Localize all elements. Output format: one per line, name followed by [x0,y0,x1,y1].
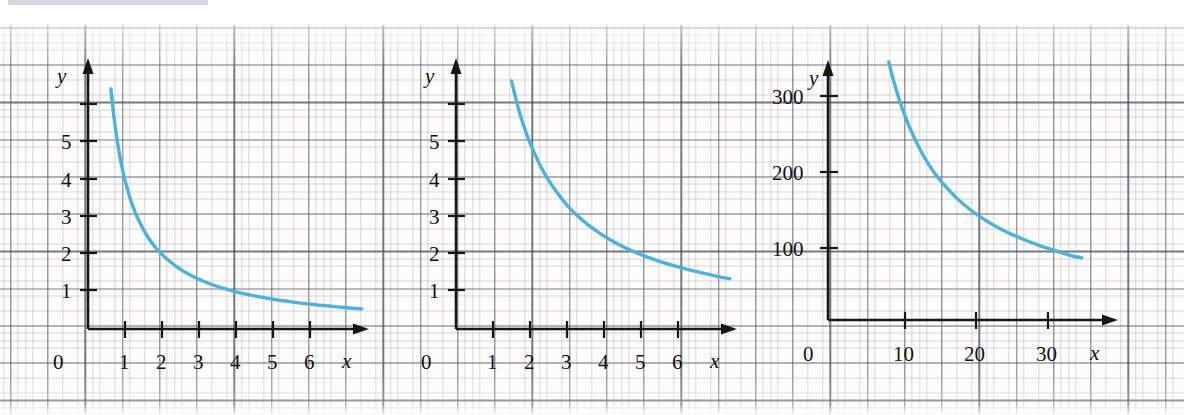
graph-c-ylabel-300: 300 [772,85,804,109]
graph-c-y-label: y [807,66,819,90]
graph-c-x-axis-arrow [1102,315,1118,326]
graph-c-xlabel-20: 20 [964,342,985,366]
graph-c: y x 0 100 200 300 10 20 30 [0,0,1184,415]
graph-c-x-label: x [1089,341,1100,365]
graph-c-ylabel-100: 100 [772,237,804,261]
graph-c-curve [889,62,1082,258]
figure-stage: y x 0 1 2 3 4 5 1 2 3 4 5 6 y x [0,0,1184,415]
graph-c-origin-label: 0 [803,342,814,366]
graph-c-ylabel-200: 200 [772,161,804,185]
graph-c-y-axis-arrow [823,60,834,76]
graph-c-xlabel-30: 30 [1036,342,1057,366]
graph-c-xlabel-10: 10 [893,342,914,366]
